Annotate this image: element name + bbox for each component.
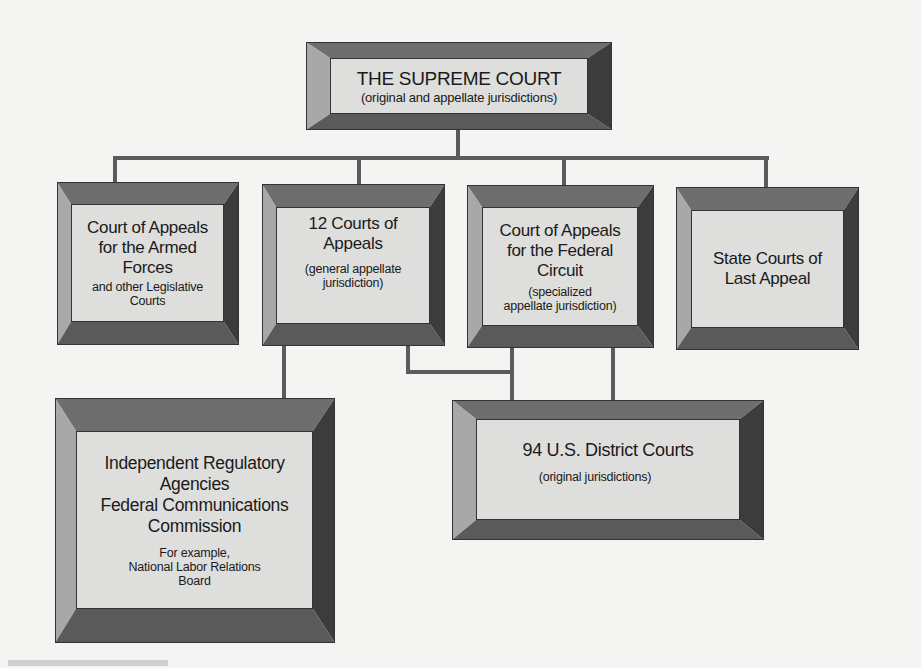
courts-of-appeals-title-line-1: 12 Courts of (308, 214, 397, 234)
district-courts-title: 94 U.S. District Courts (522, 440, 693, 460)
courts-of-appeals-subtitle-line-2: jurisdiction) (323, 276, 384, 290)
node-courts-of-appeals: 12 Courts of Appeals (general appellate … (262, 184, 445, 346)
agencies-subtitle-line-1: For example, (159, 546, 230, 560)
supreme-court-subtitle: (original and appellate jurisdictions) (361, 91, 557, 105)
connector-to-federal-circuit (562, 156, 566, 187)
state-courts-title-line-1: State Courts of (713, 249, 822, 269)
agencies-title-line-2: Agencies (160, 474, 230, 495)
agencies-title-line-4: Commission (148, 516, 241, 537)
node-federal-circuit: Court of Appeals for the Federal Circuit… (467, 185, 654, 348)
federal-circuit-title-line-2: for the Federal (507, 241, 613, 261)
district-courts-subtitle: (original jurisdictions) (539, 470, 678, 484)
node-state-courts: State Courts of Last Appeal (676, 187, 859, 350)
agencies-subtitle-line-2: National Labor Relations (128, 560, 260, 574)
federal-circuit-title-line-3: Circuit (537, 261, 583, 281)
armed-forces-subtitle-line-1: and other Legislative (92, 280, 203, 294)
state-courts-title-line-2: Last Appeal (725, 269, 811, 289)
federal-circuit-subtitle-line-1: (specialized (528, 285, 592, 299)
node-armed-forces: Court of Appeals for the Armed Forces an… (57, 182, 239, 345)
connector-appeals-to-agencies (282, 342, 286, 402)
connector-supreme-down (456, 128, 460, 158)
connector-circuit-to-district-right (611, 345, 615, 403)
armed-forces-title-line-2: for the Armed (98, 238, 196, 258)
connector-to-state-courts (764, 156, 768, 189)
node-supreme-court: THE SUPREME COURT (original and appellat… (306, 42, 612, 130)
cropped-caption-fragment (8, 660, 168, 666)
agencies-title-line-1: Independent Regulatory (104, 453, 284, 474)
node-district-courts: 94 U.S. District Courts (original jurisd… (452, 400, 764, 540)
courts-of-appeals-subtitle-line-1: (general appellate (305, 262, 401, 276)
connector-appeals-horizontal (406, 370, 514, 374)
courts-of-appeals-title-line-2: Appeals (323, 234, 382, 254)
armed-forces-title-line-3: Forces (122, 258, 172, 278)
federal-circuit-subtitle-line-2: appellate jurisdiction) (504, 299, 617, 313)
connector-to-courts-of-appeals (357, 156, 361, 186)
supreme-court-title: THE SUPREME COURT (357, 68, 562, 90)
federal-circuit-title-line-1: Court of Appeals (500, 221, 621, 241)
connector-to-armed-forces (113, 156, 117, 184)
connector-top-horizontal (113, 156, 769, 160)
node-regulatory-agencies: Independent Regulatory Agencies Federal … (55, 398, 335, 643)
armed-forces-subtitle-line-2: Courts (130, 294, 166, 308)
court-system-diagram: THE SUPREME COURT (original and appellat… (0, 0, 921, 668)
armed-forces-title-line-1: Court of Appeals (87, 218, 208, 238)
connector-circuit-to-district-left (510, 345, 514, 403)
agencies-title-line-3: Federal Communications (101, 495, 289, 516)
connector-appeals-down (406, 342, 410, 373)
agencies-subtitle-line-3: Board (178, 574, 210, 588)
